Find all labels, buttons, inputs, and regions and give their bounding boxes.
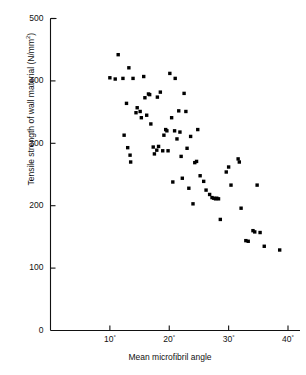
data-point xyxy=(229,183,232,186)
x-tick-label-20: 20° xyxy=(163,334,175,344)
data-point xyxy=(204,188,207,191)
data-point xyxy=(122,133,125,136)
data-point xyxy=(225,170,228,173)
y-axis-title-superscript: 2 xyxy=(25,36,31,39)
data-point xyxy=(173,129,176,132)
data-point xyxy=(129,160,132,163)
x-axis-title: Mean microfibril angle xyxy=(50,352,290,362)
x-tick-label-40: 40° xyxy=(282,334,294,344)
data-point xyxy=(108,76,111,79)
data-point xyxy=(143,96,146,99)
data-point xyxy=(155,148,158,151)
data-point xyxy=(170,116,173,119)
x-tick-group xyxy=(110,326,288,331)
data-point xyxy=(238,160,241,163)
data-point xyxy=(165,129,168,132)
data-point xyxy=(198,174,201,177)
data-point xyxy=(179,155,182,158)
data-point xyxy=(175,137,178,140)
data-point xyxy=(131,77,134,80)
data-point xyxy=(134,111,137,114)
y-tick-label-0: 0 xyxy=(39,325,44,335)
x-tick-label-10: 10° xyxy=(104,334,116,344)
data-point xyxy=(185,147,188,150)
x-tick-label-30: 30° xyxy=(223,334,235,344)
data-point xyxy=(116,53,119,56)
data-point xyxy=(189,135,192,138)
data-point xyxy=(135,106,138,109)
data-point xyxy=(191,202,194,205)
data-point xyxy=(140,116,143,119)
data-point xyxy=(128,153,131,156)
axis-group xyxy=(51,19,301,331)
data-point xyxy=(219,218,222,221)
data-point xyxy=(145,114,148,117)
data-point xyxy=(217,197,220,200)
data-point xyxy=(149,122,152,125)
data-point xyxy=(114,77,117,80)
data-point xyxy=(159,90,162,93)
data-point xyxy=(202,180,205,183)
data-point xyxy=(178,130,181,133)
data-point xyxy=(126,146,129,149)
data-point xyxy=(208,193,211,196)
y-tick-label-100: 100 xyxy=(29,262,43,272)
data-point xyxy=(239,207,242,210)
data-point xyxy=(278,248,281,251)
data-point xyxy=(125,102,128,105)
data-point xyxy=(196,128,199,131)
data-point xyxy=(168,72,171,75)
data-point xyxy=(255,183,258,186)
data-point xyxy=(182,92,185,95)
data-point xyxy=(258,231,261,234)
data-point xyxy=(253,230,256,233)
data-point xyxy=(227,165,230,168)
data-point xyxy=(247,240,250,243)
y-tick-group xyxy=(51,19,56,269)
plot-area: 0100200300400500 10°20°30°40° xyxy=(0,0,306,375)
data-point xyxy=(121,77,124,80)
data-point xyxy=(157,145,160,148)
data-point xyxy=(187,187,190,190)
data-point xyxy=(195,160,198,163)
data-point xyxy=(177,109,180,112)
data-point xyxy=(173,77,176,80)
data-point xyxy=(138,110,141,113)
y-axis-title-close: ) xyxy=(26,33,36,36)
data-point xyxy=(236,157,239,160)
data-point xyxy=(181,177,184,180)
x-tick-label-group: 10°20°30°40° xyxy=(104,334,295,344)
data-point xyxy=(156,95,159,98)
y-axis-title-text: Tensile strength of wall material (N/mm xyxy=(26,39,36,185)
data-point xyxy=(184,110,187,113)
data-point xyxy=(127,66,130,69)
data-point xyxy=(152,145,155,148)
data-point-group xyxy=(108,53,281,252)
scatter-chart-figure: 0100200300400500 10°20°30°40° Tensile st… xyxy=(0,0,306,375)
data-point xyxy=(166,149,169,152)
data-point xyxy=(171,180,174,183)
data-point xyxy=(148,93,151,96)
data-point xyxy=(153,152,156,155)
data-point xyxy=(162,133,165,136)
data-point xyxy=(263,245,266,248)
data-point xyxy=(142,75,145,78)
data-point xyxy=(161,149,164,152)
y-axis-title: Tensile strength of wall material (N/mm2… xyxy=(25,0,35,225)
